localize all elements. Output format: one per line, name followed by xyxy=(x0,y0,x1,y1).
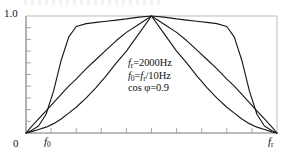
annotation-f0-value: /10Hz xyxy=(146,70,171,81)
annotation-f0-sub: 0 xyxy=(131,74,135,83)
annotation-fr-value: =2000Hz xyxy=(133,57,171,68)
annotation-line-fr: fr=2000Hz xyxy=(128,57,172,70)
annotation-f0-sub2: r xyxy=(143,74,145,83)
x-axis-label-f0: f0 xyxy=(44,136,51,147)
x-axis-ticks xyxy=(51,128,252,133)
annotation-line-f0: f0=fr/10Hz xyxy=(128,70,172,83)
x-axis-label-fr: fr xyxy=(268,136,274,147)
y-axis-ticks xyxy=(26,28,31,122)
figure-container: 1.0 0 f0 fr fr=2000Hz f0=fr/10Hz cos φ=0… xyxy=(0,0,290,160)
y-axis-label-max: 1.0 xyxy=(4,8,18,19)
annotation-fr-sub: r xyxy=(131,61,133,70)
x-axis-label-f0-sub: 0 xyxy=(47,140,51,149)
x-axis-label-fr-sub: r xyxy=(271,140,274,149)
x-axis-label-zero: 0 xyxy=(13,138,19,149)
annotation-line-cosphi: cos φ=0.9 xyxy=(128,82,172,94)
parameter-annotation: fr=2000Hz f0=fr/10Hz cos φ=0.9 xyxy=(128,57,172,94)
